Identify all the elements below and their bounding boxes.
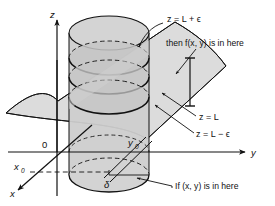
origin-label: 0 bbox=[42, 139, 47, 150]
middle-plane-label: z = L bbox=[199, 112, 219, 122]
diagram-canvas: z y x 0 x 0 y 0 δ z = L + ϵ z = L z = L … bbox=[0, 0, 275, 206]
x0-label: x bbox=[13, 161, 20, 172]
upper-plane-label: z = L + ϵ bbox=[167, 14, 201, 24]
limit-diagram-figure: z y x 0 x 0 y 0 δ z = L + ϵ z = L z = L … bbox=[0, 0, 275, 206]
delta-label: δ bbox=[104, 179, 110, 190]
if-note-label: If (x, y) is in here bbox=[175, 181, 239, 191]
x-axis-label: x bbox=[9, 188, 16, 199]
then-note-label: then f(x, y) is in here bbox=[166, 38, 244, 48]
lower-plane-label: z = L − ϵ bbox=[196, 129, 230, 139]
y0-subscript: 0 bbox=[135, 143, 139, 150]
z-axis-label: z bbox=[49, 9, 55, 20]
x0-subscript: 0 bbox=[21, 167, 25, 174]
y-axis-label: y bbox=[250, 147, 257, 158]
